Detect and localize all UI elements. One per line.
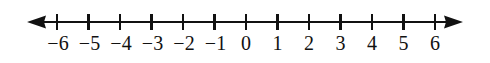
number-line-figure: −6−5−4−3−2−10123456 (0, 0, 490, 63)
left-arrowhead (27, 16, 46, 29)
tick-label-neg3: −3 (142, 32, 163, 54)
tick-label-neg4: −4 (110, 32, 131, 54)
tick-label-0: 0 (241, 32, 251, 54)
tick-label-1: 1 (273, 32, 283, 54)
tick-label-neg5: −5 (79, 32, 100, 54)
number-line-svg: −6−5−4−3−2−10123456 (0, 0, 490, 63)
right-arrowhead (444, 16, 463, 29)
tick-label-neg1: −1 (205, 32, 226, 54)
tick-label-neg2: −2 (173, 32, 194, 54)
tick-label-4: 4 (367, 32, 377, 54)
tick-label-5: 5 (399, 32, 409, 54)
tick-label-6: 6 (430, 32, 440, 54)
tick-label-neg6: −6 (47, 32, 68, 54)
tick-labels-group: −6−5−4−3−2−10123456 (47, 32, 440, 54)
tick-label-2: 2 (304, 32, 314, 54)
tick-label-3: 3 (336, 32, 346, 54)
